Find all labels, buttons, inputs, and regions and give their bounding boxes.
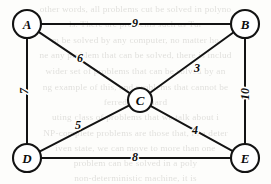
edge-weight-d-c: 5 <box>75 118 81 132</box>
graph-edge-c-b <box>150 32 234 93</box>
graph-edge-d-c <box>39 105 129 151</box>
edge-weight-c-e: 4 <box>191 123 198 137</box>
edge-weight-d-e: 8 <box>132 150 138 164</box>
graph-edge-a-c <box>39 32 130 93</box>
edge-weight-a-b: 9 <box>132 16 138 30</box>
nodes-group: ABCDE <box>13 10 259 172</box>
graph-node-label-d: D <box>21 151 32 166</box>
edge-weight-b-e: 10 <box>238 88 252 100</box>
edge-weight-a-c: 6 <box>77 51 83 65</box>
edge-weight-c-b: 3 <box>193 61 200 75</box>
edge-weight-a-d: 7 <box>17 87 31 94</box>
graph-diagram-page: other words, all problems cut be solved … <box>0 0 271 184</box>
graph-node-label-e: E <box>240 151 250 166</box>
graph-node-label-a: A <box>22 17 32 32</box>
graph-node-label-b: B <box>240 17 250 32</box>
graph-node-label-c: C <box>136 93 145 108</box>
weighted-graph-canvas: ABCDE 996677335544101088 <box>0 0 271 184</box>
